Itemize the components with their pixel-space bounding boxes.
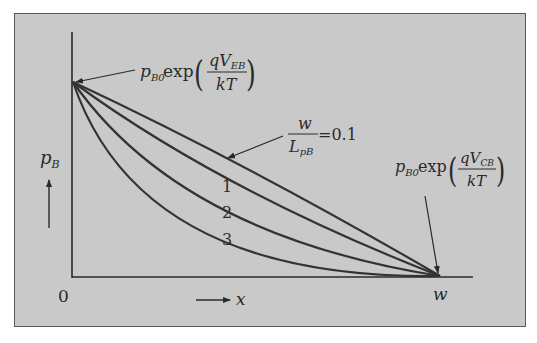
svg-text:exp: exp bbox=[163, 61, 194, 81]
svg-text:): ) bbox=[246, 52, 256, 94]
svg-text:pB0: pB0 bbox=[140, 61, 165, 83]
svg-text:(: ( bbox=[194, 52, 204, 94]
left-boundary-expression: pB0 exp ( qVEB kT ) bbox=[140, 51, 256, 94]
curves bbox=[73, 82, 440, 276]
ratio-label: w LpB =0.1 bbox=[288, 114, 357, 157]
left-boundary-arrow bbox=[76, 70, 135, 82]
curve-ratio-0.1 bbox=[73, 82, 440, 276]
curve-3 bbox=[73, 82, 440, 276]
curve-label-2: 2 bbox=[222, 203, 232, 222]
svg-text:qVEB: qVEB bbox=[209, 51, 245, 71]
svg-text:qVCB: qVCB bbox=[460, 149, 494, 168]
right-boundary-arrow bbox=[425, 196, 438, 273]
ratio-arrow bbox=[228, 136, 283, 158]
svg-text:kT: kT bbox=[216, 75, 238, 94]
x-axis-label: x bbox=[236, 289, 246, 309]
svg-text:(: ( bbox=[448, 151, 457, 190]
svg-text:exp: exp bbox=[418, 157, 447, 176]
svg-text:w: w bbox=[298, 114, 312, 133]
origin-label: 0 bbox=[58, 286, 69, 306]
y-axis-label: pB bbox=[40, 147, 60, 171]
svg-text:): ) bbox=[496, 151, 505, 190]
right-boundary-expression: pB0 exp ( qVCB kT ) bbox=[395, 149, 505, 190]
curve-1 bbox=[73, 82, 440, 276]
base-profile-diagram: pB 0 x w pB0 exp ( qVEB kT ) w LpB =0.1 … bbox=[0, 0, 537, 343]
curve-label-1: 1 bbox=[222, 177, 232, 196]
curve-label-3: 3 bbox=[222, 230, 232, 249]
curve-2 bbox=[73, 82, 440, 276]
x-end-label: w bbox=[433, 284, 448, 304]
svg-text:LpB: LpB bbox=[288, 137, 313, 157]
svg-text:kT: kT bbox=[467, 172, 487, 190]
svg-text:pB0: pB0 bbox=[395, 157, 420, 178]
svg-text:=0.1: =0.1 bbox=[318, 125, 357, 144]
